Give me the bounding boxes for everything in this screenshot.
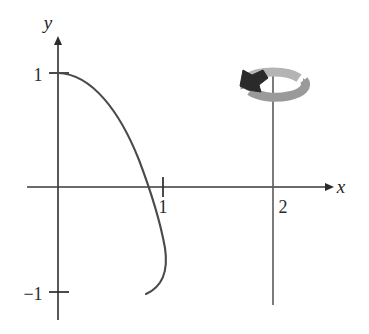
y-axis-label: y (42, 12, 53, 33)
plot-canvas: x y 1 −1 1 2 (0, 0, 369, 334)
math-figure: x y 1 −1 1 2 (0, 0, 369, 334)
x-axis-label: x (336, 176, 346, 197)
plotted-curve (58, 73, 166, 294)
x-tick-label-1: 1 (159, 197, 168, 217)
y-tick-label-minus-1: −1 (23, 284, 42, 304)
x-tick-label-2: 2 (279, 197, 288, 217)
y-tick-label-1: 1 (34, 65, 43, 85)
